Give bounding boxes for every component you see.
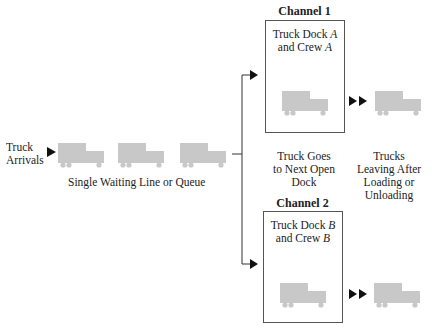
exit-arrow-icon xyxy=(349,289,357,299)
truck-arrivals-label: Truck Arrivals xyxy=(6,141,44,167)
trucks-leaving-label: Trucks Leaving After Loading or Unloadin… xyxy=(346,150,432,202)
dock-b-truck-icon xyxy=(280,283,326,308)
queue-label: Single Waiting Line or Queue xyxy=(68,176,248,189)
exit-arrow-icon xyxy=(359,96,367,106)
dock-a-truck-icon xyxy=(282,91,328,116)
exit-arrow-icon xyxy=(349,96,357,106)
leaving-truck-icon xyxy=(375,91,421,116)
leaving-truck-icon xyxy=(374,283,420,308)
exit-arrow-icon xyxy=(359,289,367,299)
goes-to-next-dock-label: Truck Goes to Next Open Dock xyxy=(264,150,344,189)
